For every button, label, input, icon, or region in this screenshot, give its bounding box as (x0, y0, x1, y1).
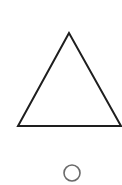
diagram-canvas (0, 0, 122, 185)
circle-shape (64, 165, 80, 181)
triangle-shape (18, 33, 121, 126)
